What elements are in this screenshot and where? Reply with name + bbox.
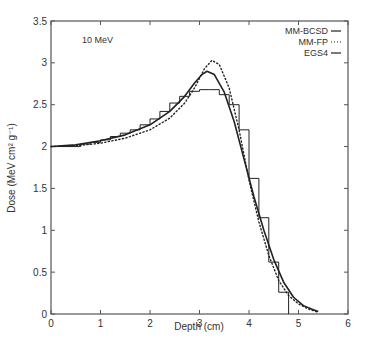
x-tick-label: 6 <box>345 318 351 329</box>
x-tick-label: 1 <box>98 318 104 329</box>
y-tick-label: 0 <box>41 309 47 320</box>
x-tick-label: 5 <box>296 318 302 329</box>
legend-label: EGS4 <box>304 48 328 58</box>
plot-frame <box>51 21 348 314</box>
y-tick-label: 2 <box>41 141 47 152</box>
series-egs4 <box>51 90 289 314</box>
y-tick-label: 2.5 <box>33 99 47 110</box>
y-tick-label: 0.5 <box>33 267 47 278</box>
axis-ticks: 012345600.511.522.533.5 <box>33 16 351 330</box>
series-layer <box>51 60 318 314</box>
energy-annotation: 10 MeV <box>82 35 113 45</box>
plot-border <box>51 21 348 314</box>
y-tick-label: 3.5 <box>33 16 47 27</box>
x-tick-label: 0 <box>48 318 54 329</box>
legend-label: MM-FP <box>299 37 329 47</box>
dose-depth-chart: 012345600.511.522.533.5 10 MeV MM-BCSDMM… <box>0 0 368 355</box>
y-tick-label: 1 <box>41 225 47 236</box>
legend-label: MM-BCSD <box>285 26 328 36</box>
y-tick-label: 1.5 <box>33 183 47 194</box>
y-axis-title: Dose (MeV cm² g⁻¹) <box>6 123 17 212</box>
x-tick-label: 2 <box>147 318 153 329</box>
y-tick-label: 3 <box>41 57 47 68</box>
x-tick-label: 4 <box>246 318 252 329</box>
x-axis-title: Depth (cm) <box>174 321 223 332</box>
legend: MM-BCSDMM-FPEGS4 <box>285 26 341 58</box>
